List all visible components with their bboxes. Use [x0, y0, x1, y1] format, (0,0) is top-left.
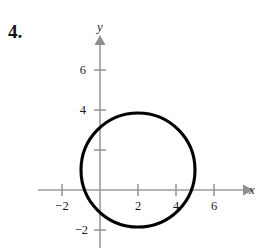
x-tick-label-2: 2 — [135, 199, 141, 213]
x-axis-label: x — [248, 182, 255, 197]
figure-container: 4. −2 2 4 6 6 4 −2 x y — [0, 0, 263, 252]
x-tick-label-6: 6 — [211, 199, 217, 213]
y-tick-label-6: 6 — [80, 63, 86, 77]
y-tick-label-4: 4 — [80, 103, 87, 117]
y-axis-label: y — [95, 19, 103, 34]
y-tick-label-neg2: −2 — [75, 223, 88, 237]
coordinate-plot: −2 2 4 6 6 4 −2 x y — [0, 0, 263, 252]
y-axis-arrowhead — [95, 35, 106, 45]
x-tick-label-neg2: −2 — [55, 199, 68, 213]
x-tick-label-4: 4 — [173, 199, 180, 213]
